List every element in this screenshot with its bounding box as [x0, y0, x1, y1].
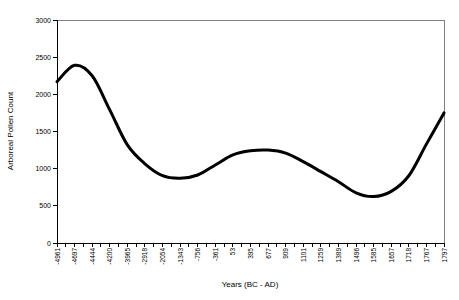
x-axis-title: Years (BC - AD) [222, 280, 279, 289]
x-tick-label: 909 [282, 248, 289, 259]
x-tick-label: -361 [212, 248, 219, 261]
plot-area-border [57, 20, 444, 243]
x-tick-label: -4200 [106, 248, 113, 265]
x-tick-label: 1585 [370, 248, 377, 263]
x-tick-label: 1657 [388, 248, 395, 263]
x-tick-label: 1389 [335, 248, 342, 263]
x-tick-label: 395 [247, 248, 254, 259]
x-tick-label: 1101 [300, 248, 307, 262]
chart-canvas: 050010001500200025003000 -4961-4697-4444… [0, 0, 459, 300]
x-axis: -4961-4697-4444-4200-3965-2918-2054-1343… [54, 243, 448, 265]
x-tick-label: -4961 [54, 248, 61, 265]
x-tick-label: -4697 [71, 248, 78, 265]
x-tick-label: 1496 [353, 248, 360, 263]
y-tick-label: 2500 [35, 54, 51, 61]
x-tick-label: -3965 [124, 248, 131, 265]
x-tick-label: 1797 [441, 248, 448, 263]
y-tick-label: 1500 [35, 128, 51, 135]
y-axis-title: Arboreal Pollen Count [6, 91, 15, 170]
x-tick-label: -4444 [89, 248, 96, 265]
x-tick-label: -2054 [159, 248, 166, 265]
x-tick-label: -1343 [177, 248, 184, 265]
y-tick-label: 2000 [35, 91, 51, 98]
y-tick-label: 0 [47, 240, 51, 247]
arboreal-pollen-chart: 050010001500200025003000 -4961-4697-4444… [0, 0, 459, 300]
x-tick-label: 53 [229, 248, 236, 256]
x-tick-label: -2918 [141, 248, 148, 265]
pollen-count-series-line [57, 65, 444, 196]
y-tick-label: 1000 [35, 165, 51, 172]
x-tick-label: 1718 [405, 248, 412, 263]
y-axis: 050010001500200025003000 [35, 17, 57, 247]
y-tick-label: 500 [39, 202, 51, 209]
x-tick-label: 1259 [317, 248, 324, 263]
x-tick-label: -756 [194, 248, 201, 261]
x-tick-label: 1767 [423, 248, 430, 263]
y-tick-label: 3000 [35, 17, 51, 24]
x-tick-label: 677 [265, 248, 272, 259]
